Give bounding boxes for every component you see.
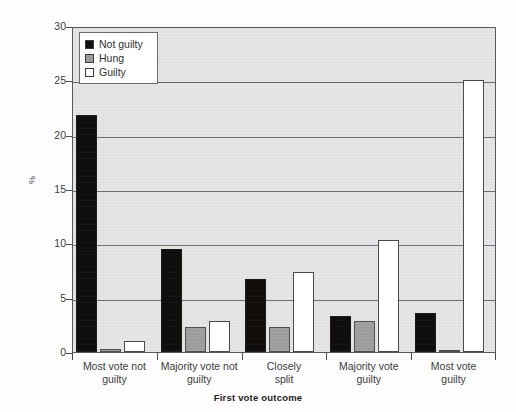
legend-item[interactable]: Hung [85,51,152,65]
bar [161,249,182,352]
chart-legend: Not guiltyHungGuilty [79,32,158,84]
bar [293,272,314,352]
x-axis-tick [495,353,496,360]
y-axis-tick-label: 5 [44,292,66,304]
bar [245,279,266,352]
legend-label: Guilty [99,66,126,78]
bar [124,341,145,352]
bar [209,321,230,353]
bar [378,240,399,352]
x-axis-tick [326,353,327,360]
x-axis-category-label-line: Most vote [403,360,504,373]
bar [439,350,460,352]
x-axis-tick [242,353,243,360]
bar [100,349,121,352]
legend-label: Hung [99,52,124,64]
bar-group [327,28,412,352]
legend-label: Not guilty [99,38,143,50]
bar [185,327,206,352]
legend-swatch-hung-icon [85,54,94,63]
legend-swatch-notguilty-icon [85,40,94,49]
bar-chart-figure: % 051015202530 Not guiltyHungGuilty Most… [0,0,516,412]
x-axis-tick [72,353,73,360]
bar-group [243,28,328,352]
x-axis-tick [411,353,412,360]
y-axis-tick-label: 0 [44,346,66,358]
y-axis-tick-label: 20 [44,129,66,141]
y-axis-tick-label: 25 [44,74,66,86]
x-axis-category-label-line: guilty [403,373,504,386]
y-axis-tick-label: 15 [44,183,66,195]
bar [76,115,97,352]
x-axis-category-label: Most voteguilty [403,360,504,386]
x-axis-tick [157,353,158,360]
legend-item[interactable]: Guilty [85,65,152,79]
y-axis-title: % [27,170,37,190]
x-axis-category-labels: Most vote notguiltyMajority vote notguil… [72,360,496,394]
bar [269,327,290,352]
bar-group [158,28,243,352]
bar [463,80,484,352]
bar [330,316,351,352]
y-axis-tick-label: 10 [44,237,66,249]
x-axis-title: First vote outcome [0,392,516,403]
y-axis-tick-label: 30 [44,20,66,32]
legend-swatch-guilty-icon [85,68,94,77]
legend-item[interactable]: Not guilty [85,37,152,51]
bar-group [412,28,497,352]
bar [415,313,436,352]
bar [354,321,375,353]
